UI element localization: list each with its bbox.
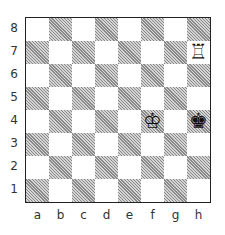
square-b6[interactable] [49, 64, 72, 87]
square-f5[interactable] [141, 87, 164, 110]
square-c3[interactable] [72, 133, 95, 156]
square-f4[interactable]: ♔ [141, 110, 164, 133]
square-c6[interactable] [72, 64, 95, 87]
file-label: c [72, 208, 95, 222]
square-c5[interactable] [72, 87, 95, 110]
square-e8[interactable] [118, 18, 141, 41]
square-c2[interactable] [72, 156, 95, 179]
square-c1[interactable] [72, 179, 95, 202]
square-e7[interactable] [118, 41, 141, 64]
square-f1[interactable] [141, 179, 164, 202]
square-h2[interactable] [187, 156, 210, 179]
square-a2[interactable] [26, 156, 49, 179]
square-b3[interactable] [49, 133, 72, 156]
square-h6[interactable] [187, 64, 210, 87]
file-label: a [26, 208, 49, 222]
square-a3[interactable] [26, 133, 49, 156]
square-c7[interactable] [72, 41, 95, 64]
square-f3[interactable] [141, 133, 164, 156]
square-d3[interactable] [95, 133, 118, 156]
square-g8[interactable] [164, 18, 187, 41]
square-a4[interactable] [26, 110, 49, 133]
file-label: b [49, 208, 72, 222]
square-c4[interactable] [72, 110, 95, 133]
black-king-icon[interactable]: ♚ [189, 110, 208, 133]
square-d8[interactable] [95, 18, 118, 41]
square-e5[interactable] [118, 87, 141, 110]
square-d4[interactable] [95, 110, 118, 133]
square-a8[interactable] [26, 18, 49, 41]
square-f8[interactable] [141, 18, 164, 41]
square-b4[interactable] [49, 110, 72, 133]
square-h1[interactable] [187, 179, 210, 202]
square-e3[interactable] [118, 133, 141, 156]
square-c8[interactable] [72, 18, 95, 41]
square-f6[interactable] [141, 64, 164, 87]
square-a5[interactable] [26, 87, 49, 110]
rank-label: 7 [8, 44, 20, 58]
square-h4[interactable]: ♚ [187, 110, 210, 133]
square-a6[interactable] [26, 64, 49, 87]
square-e6[interactable] [118, 64, 141, 87]
square-h7[interactable]: ♖ [187, 41, 210, 64]
square-e1[interactable] [118, 179, 141, 202]
square-h8[interactable] [187, 18, 210, 41]
rank-label: 4 [8, 113, 20, 127]
rank-label: 8 [8, 21, 20, 35]
rank-label: 5 [8, 90, 20, 104]
file-label: f [141, 208, 164, 222]
square-g1[interactable] [164, 179, 187, 202]
square-e2[interactable] [118, 156, 141, 179]
square-h3[interactable] [187, 133, 210, 156]
white-king-icon[interactable]: ♔ [143, 110, 162, 133]
square-d5[interactable] [95, 87, 118, 110]
square-d1[interactable] [95, 179, 118, 202]
square-d2[interactable] [95, 156, 118, 179]
square-d6[interactable] [95, 64, 118, 87]
square-g5[interactable] [164, 87, 187, 110]
rank-label: 6 [8, 67, 20, 81]
file-label: e [118, 208, 141, 222]
white-rook-icon[interactable]: ♖ [189, 41, 208, 64]
square-d7[interactable] [95, 41, 118, 64]
square-g2[interactable] [164, 156, 187, 179]
file-label: d [95, 208, 118, 222]
square-h5[interactable] [187, 87, 210, 110]
square-a7[interactable] [26, 41, 49, 64]
square-b1[interactable] [49, 179, 72, 202]
square-g3[interactable] [164, 133, 187, 156]
file-label: h [187, 208, 210, 222]
chess-board: ♖♔♚ [25, 17, 211, 203]
square-b2[interactable] [49, 156, 72, 179]
square-a1[interactable] [26, 179, 49, 202]
square-f7[interactable] [141, 41, 164, 64]
square-g4[interactable] [164, 110, 187, 133]
rank-label: 3 [8, 136, 20, 150]
square-e4[interactable] [118, 110, 141, 133]
square-b5[interactable] [49, 87, 72, 110]
square-g7[interactable] [164, 41, 187, 64]
square-b8[interactable] [49, 18, 72, 41]
square-g6[interactable] [164, 64, 187, 87]
rank-label: 2 [8, 159, 20, 173]
rank-label: 1 [8, 182, 20, 196]
square-f2[interactable] [141, 156, 164, 179]
square-b7[interactable] [49, 41, 72, 64]
file-label: g [164, 208, 187, 222]
